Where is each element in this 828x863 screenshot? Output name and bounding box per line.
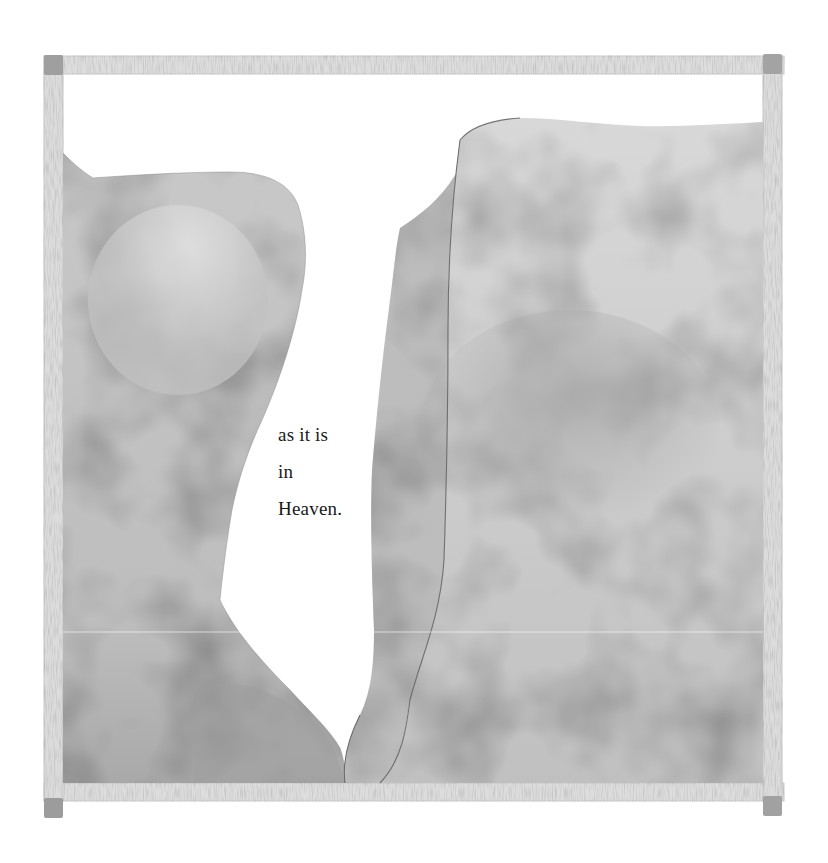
verse-line-3: Heaven. <box>278 490 342 527</box>
verse-text: as it is in Heaven. <box>278 416 342 527</box>
frame-corner-tr <box>763 54 782 74</box>
watercolor-illustration <box>0 0 828 863</box>
verse-line-1: as it is <box>278 416 342 453</box>
verse-line-2: in <box>278 453 342 490</box>
frame-corner-br <box>763 796 782 816</box>
frame-corner-tl <box>44 55 63 75</box>
frame-corner-bl <box>44 798 63 818</box>
